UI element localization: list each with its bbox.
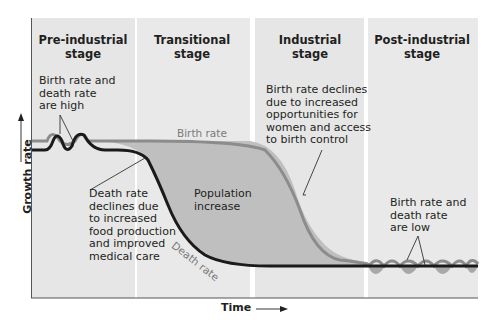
note-death-decline: Death ratedeclines dueto increased food …: [89, 188, 176, 263]
y-axis-label: Growth rate: [21, 132, 34, 222]
note-population-increase: Populationincrease: [194, 188, 252, 213]
stage-title-postindustrial: Post-industrialstage: [367, 33, 477, 61]
stage-title-transitional: Transitionalstage: [137, 33, 247, 61]
y-axis-arrow-icon: [18, 113, 24, 121]
x-axis-label: Time: [221, 301, 251, 314]
note-high-rates: Birth rate anddeath rateare high: [39, 75, 115, 113]
note-birth-decline: Birth rate declinesdue to increasedoppor…: [266, 84, 371, 147]
birth-rate-label: Birth rate: [177, 127, 227, 139]
stage-title-preindustrial: Pre-industrialstage: [28, 33, 138, 61]
note-low-rates: Birth rate anddeath rateare low: [390, 197, 466, 235]
x-axis-arrow-icon: [280, 306, 288, 312]
stage-title-industrial: Industrialstage: [255, 33, 365, 61]
